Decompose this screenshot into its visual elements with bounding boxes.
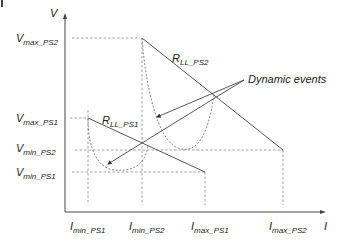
x-tick-imax-ps1: Imax_PS1 [191,220,229,235]
load-line-diagram: V I Dynamic events RLL_PS2 RLL_PS1 Vmax_… [0,0,343,242]
y-tick-vmax-ps1: Vmax_PS1 [16,112,58,127]
dynamic-event-arrow-ps2 [157,80,244,117]
load-line-ps2-label: RLL_PS2 [172,52,209,67]
y-axis-arrow-icon [63,13,67,19]
dynamic-events-label: Dynamic events [248,73,327,85]
x-tick-imax-ps2: Imax_PS2 [269,220,307,235]
x-tick-imin-ps2: Imin_PS2 [129,220,165,235]
x-axis-label: I [324,220,327,232]
y-tick-vmin-ps1: Vmin_PS1 [16,166,56,181]
x-tick-imin-ps1: Imin_PS1 [70,220,106,235]
x-axis-arrow-icon [320,210,326,214]
load-line-ps1 [88,118,205,172]
y-tick-vmax-ps2: Vmax_PS2 [16,32,59,47]
y-axis-label: V [50,7,59,19]
y-tick-vmin-ps2: Vmin_PS2 [16,142,56,157]
corner-mark [1,0,3,7]
